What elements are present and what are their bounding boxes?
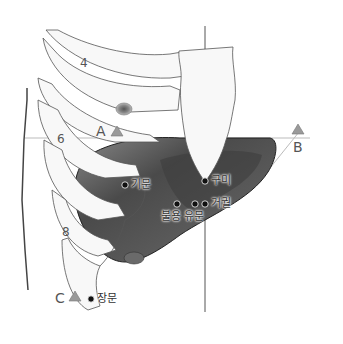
anatomy-illustration (0, 0, 343, 344)
point-gimun-label: 기문 (131, 179, 151, 190)
point-jangmun-label: 장문 (97, 293, 117, 304)
point-geogwol-label: 거궐 (211, 198, 231, 209)
rib-label-8: 8 (62, 226, 70, 238)
rib-label-6: 6 (57, 133, 65, 145)
point-gumi-label: 구미 (211, 175, 231, 186)
landmark-c-label: C (55, 291, 65, 305)
gallbladder (124, 252, 144, 264)
point-gimun-dot (122, 182, 128, 188)
rib-label-4: 4 (80, 57, 88, 69)
point-geogwol-dot (202, 201, 208, 207)
nipple-mark (116, 103, 132, 115)
body-outline (22, 88, 28, 290)
point-burong-label: 불용 (161, 211, 181, 222)
point-jangmun-dot (88, 296, 94, 302)
anatomy-diagram: 4 6 8 A B C 기문 구미 불용 유문 거궐 장문 (0, 0, 343, 344)
landmark-b-label: B (293, 140, 303, 154)
landmark-b-marker (292, 124, 304, 134)
point-gumi-dot (202, 178, 208, 184)
point-burong-dot (174, 201, 180, 207)
point-yumun-label: 유문 (184, 211, 204, 222)
point-yumun-dot (192, 201, 198, 207)
landmark-a-label: A (96, 124, 106, 138)
